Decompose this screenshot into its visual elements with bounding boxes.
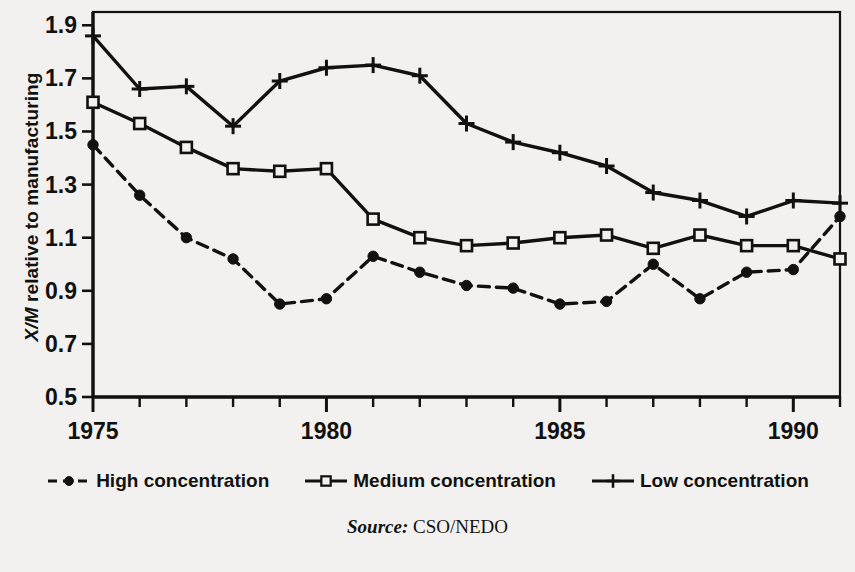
filled-circle-icon	[601, 296, 611, 306]
filled-circle-icon	[65, 477, 74, 486]
y-tick-label: 1.5	[45, 118, 77, 144]
open-square-icon	[134, 118, 145, 129]
open-square-icon	[322, 476, 331, 485]
filled-circle-icon	[368, 251, 378, 261]
filled-circle-icon	[788, 264, 798, 274]
y-tick-label: 1.9	[45, 12, 77, 38]
y-tick-label: 1.3	[45, 172, 77, 198]
series-high-concentration	[88, 140, 845, 310]
x-tick-label: 1975	[67, 418, 118, 444]
legend-swatch-plus-icon	[590, 470, 636, 492]
plus-icon	[599, 158, 615, 174]
source-note: Source: CSO/NEDO	[0, 516, 855, 538]
open-square-icon	[835, 253, 846, 264]
x-axis-tick-labels: 1975198019851990	[67, 418, 818, 444]
open-square-icon	[321, 163, 332, 174]
filled-circle-icon	[181, 232, 191, 242]
open-square-icon	[181, 142, 192, 153]
plus-icon	[365, 57, 381, 73]
filled-circle-icon	[275, 299, 285, 309]
plot-frame	[93, 12, 840, 397]
filled-circle-icon	[555, 299, 565, 309]
y-tick-label: 0.5	[45, 384, 77, 410]
filled-circle-icon	[835, 211, 845, 221]
y-axis-ticks: 0.50.70.91.11.31.51.71.9	[45, 12, 93, 410]
open-square-icon	[414, 232, 425, 243]
x-tick-label: 1990	[768, 418, 819, 444]
open-square-icon	[228, 163, 239, 174]
filled-circle-icon	[88, 140, 98, 150]
x-tick-label: 1985	[534, 418, 585, 444]
source-value: CSO/NEDO	[413, 516, 508, 537]
y-tick-label: 1.1	[45, 225, 77, 251]
open-square-icon	[274, 166, 285, 177]
plus-icon	[505, 134, 521, 150]
legend-item-high-concentration[interactable]: High concentration	[46, 470, 269, 492]
legend-item-medium-concentration[interactable]: Medium concentration	[303, 470, 556, 492]
legend-swatch-filled-circle-icon	[46, 470, 92, 492]
legend-item-label: Medium concentration	[353, 470, 556, 492]
open-square-icon	[601, 230, 612, 241]
legend-item-label: High concentration	[96, 470, 269, 492]
filled-circle-icon	[321, 294, 331, 304]
open-square-icon	[508, 238, 519, 249]
plus-icon	[692, 193, 708, 209]
open-square-icon	[788, 240, 799, 251]
plus-icon	[606, 474, 620, 488]
open-square-icon	[368, 214, 379, 225]
filled-circle-icon	[461, 280, 471, 290]
series-low-concentration	[85, 28, 848, 225]
x-axis-ticks	[93, 397, 840, 412]
chart-figure: X/M relative to manufacturing 0.50.70.91…	[0, 0, 855, 572]
plus-icon	[645, 185, 661, 201]
filled-circle-icon	[415, 267, 425, 277]
open-square-icon	[554, 232, 565, 243]
data-series-layer	[85, 28, 848, 309]
plus-icon	[739, 208, 755, 224]
open-square-icon	[694, 230, 705, 241]
filled-circle-icon	[695, 294, 705, 304]
x-tick-label: 1980	[301, 418, 352, 444]
filled-circle-icon	[648, 259, 658, 269]
filled-circle-icon	[741, 267, 751, 277]
filled-circle-icon	[228, 254, 238, 264]
y-tick-label: 1.7	[45, 65, 77, 91]
plus-icon	[785, 193, 801, 209]
chart-legend: High concentrationMedium concentrationLo…	[0, 470, 855, 492]
y-tick-label: 0.7	[45, 331, 77, 357]
open-square-icon	[741, 240, 752, 251]
legend-item-label: Low concentration	[640, 470, 809, 492]
open-square-icon	[88, 97, 99, 108]
open-square-icon	[461, 240, 472, 251]
open-square-icon	[648, 243, 659, 254]
filled-circle-icon	[508, 283, 518, 293]
line-chart-plot: 0.50.70.91.11.31.51.71.9 197519801985199…	[0, 0, 855, 470]
plus-icon	[318, 60, 334, 76]
legend-item-low-concentration[interactable]: Low concentration	[590, 470, 809, 492]
filled-circle-icon	[134, 190, 144, 200]
legend-swatch-open-square-icon	[303, 470, 349, 492]
source-label: Source:	[347, 516, 408, 537]
y-tick-label: 0.9	[45, 278, 77, 304]
plus-icon	[552, 145, 568, 161]
plus-icon	[832, 195, 848, 211]
